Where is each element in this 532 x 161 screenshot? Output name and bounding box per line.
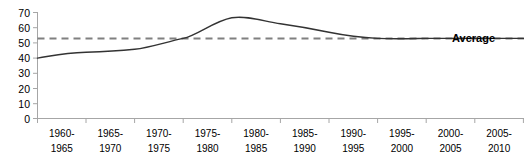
x-tick-label-8-line2: 2005	[439, 143, 462, 154]
x-tick-label-1-line2: 1970	[99, 143, 122, 154]
x-tick-label-0-line2: 1965	[51, 143, 74, 154]
x-tick-label-6-line2: 1995	[342, 143, 365, 154]
x-tick-label-0-line1: 1960-	[49, 128, 75, 139]
x-tick-label-2-line2: 1975	[148, 143, 171, 154]
y-tick-label-0: 0	[24, 113, 30, 125]
x-tick-labels: 1960- 1965 1965- 1970 1970- 1975 1975- 1…	[49, 128, 512, 154]
y-tick-label-20: 20	[18, 83, 30, 95]
x-tick-label-3-line2: 1980	[196, 143, 219, 154]
x-tick-label-7-line1: 1995-	[389, 128, 415, 139]
average-annotation-label: Average	[452, 32, 495, 44]
x-tick-label-9-line1: 2005-	[486, 128, 512, 139]
x-tick-label-4-line1: 1980-	[243, 128, 269, 139]
y-tick-labels: 70 60 50 40 30 20 10 0	[18, 7, 30, 125]
x-tick-label-3-line1: 1975-	[195, 128, 221, 139]
x-tick-label-4-line2: 1985	[245, 143, 268, 154]
x-tick-label-8-line1: 2000-	[438, 128, 464, 139]
y-tick-label-30: 30	[18, 67, 30, 79]
x-tick-label-1-line1: 1965-	[98, 128, 124, 139]
x-tick-label-5-line1: 1985-	[292, 128, 318, 139]
y-tick-label-40: 40	[18, 52, 30, 64]
x-tick-label-5-line2: 1990	[294, 143, 317, 154]
y-tick-label-50: 50	[18, 37, 30, 49]
x-tick-label-9-line2: 2010	[488, 143, 511, 154]
chart-container: 70 60 50 40 30 20 10 0 Avera	[0, 0, 532, 161]
x-tick-label-7-line2: 2000	[391, 143, 414, 154]
line-chart-plot: 70 60 50 40 30 20 10 0 Avera	[0, 0, 532, 161]
y-tick-label-60: 60	[18, 22, 30, 34]
x-tick-marks	[38, 119, 524, 124]
y-tick-label-10: 10	[18, 98, 30, 110]
y-tick-marks	[33, 13, 38, 119]
x-tick-label-6-line1: 1990-	[341, 128, 367, 139]
x-tick-label-2-line1: 1970-	[146, 128, 172, 139]
y-tick-label-70: 70	[18, 7, 30, 19]
